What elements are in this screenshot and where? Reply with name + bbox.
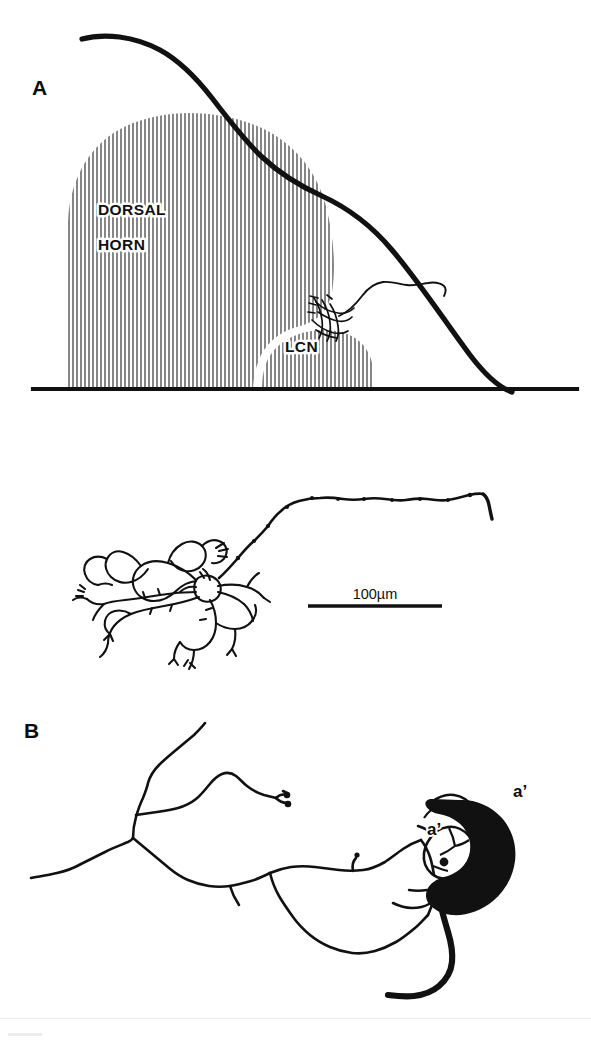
panel-b-dendrites (31, 723, 437, 953)
panel-b-drawing: B (0, 0, 591, 1042)
panel-b-letter: B (24, 719, 39, 742)
soma-label-left-text: a’ (427, 820, 441, 839)
soma-label-right-text: a’ (513, 782, 527, 801)
page-bottom-rule (0, 1018, 591, 1019)
soma-label-left: a’ a’ (427, 820, 441, 839)
soma-label-right: a’ a’ (513, 782, 527, 801)
figure-canvas: A (0, 0, 591, 1042)
nucleolus-dot (440, 858, 449, 867)
page-bottom-smudge (8, 1033, 42, 1036)
panel-b-soma (388, 795, 515, 997)
